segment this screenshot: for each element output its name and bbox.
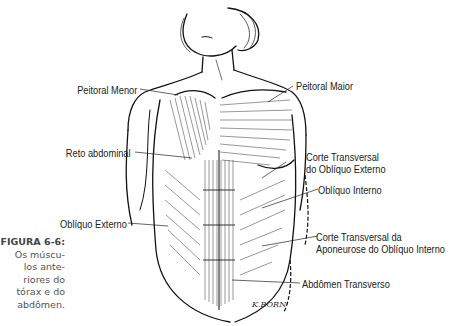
label-corte-obliquo-externo-1: Corte Transversal xyxy=(306,151,379,163)
label-obliquo-externo: Oblíquo Externo xyxy=(60,218,127,230)
label-peitoral-maior: Peitoral Maior xyxy=(296,80,353,92)
label-corte-aponeurose-2: Aponeurose do Oblíquo Interno xyxy=(316,243,445,255)
figure-caption: FIGURA 6-6: Os múscu- los ante- riores d… xyxy=(0,236,65,311)
label-peitoral-menor: Peitoral Menor xyxy=(77,84,137,96)
label-reto-abdominal: Reto abdominal xyxy=(66,147,131,159)
anatomy-figure: Peitoral Menor Peitoral Maior Reto abdom… xyxy=(0,0,467,326)
caption-line: tórax e do xyxy=(16,286,65,297)
label-abdomen-transverso: Abdômen Transverso xyxy=(302,278,390,290)
torso-muscle-illustration xyxy=(0,0,467,326)
label-corte-obliquo-externo-2: do Oblíquo Externo xyxy=(306,163,386,175)
caption-line: Os múscu- xyxy=(15,249,65,260)
caption-line: los ante- xyxy=(24,261,65,272)
label-obliquo-interno: Oblíquo Interno xyxy=(318,184,382,196)
label-corte-aponeurose-1: Corte Transversal da xyxy=(316,231,402,243)
caption-line: abdômen. xyxy=(17,299,65,310)
caption-line: riores do xyxy=(23,274,65,285)
artist-signature: K.BORN xyxy=(252,300,286,309)
figure-number: FIGURA 6-6: xyxy=(0,236,65,249)
